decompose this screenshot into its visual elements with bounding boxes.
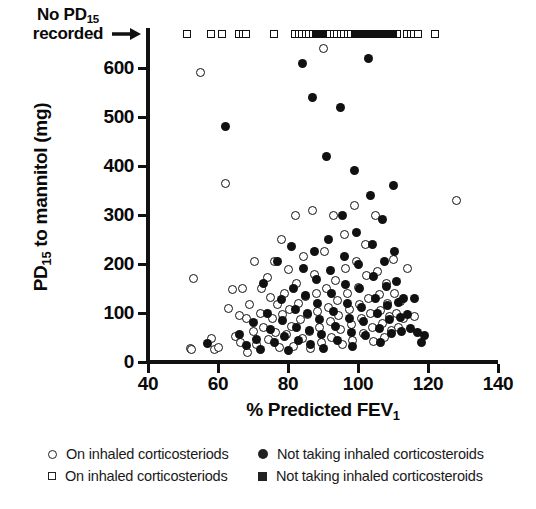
data-point [310, 247, 319, 256]
no-pd15-annotation: No PD15 recorded [14, 6, 122, 43]
data-point [277, 235, 286, 244]
legend: On inhaled corticosteriodsNot taking inh… [0, 444, 536, 490]
data-point [319, 344, 328, 353]
data-point [420, 331, 429, 340]
data-point [245, 300, 254, 309]
data-point [270, 338, 279, 347]
x-tick-120 [427, 364, 430, 373]
data-point [359, 317, 368, 326]
data-point [312, 275, 321, 284]
data-point [338, 211, 347, 220]
data-point [250, 257, 259, 266]
legend-entry-3[interactable]: On inhaled corticosteriods [48, 468, 227, 484]
data-point [280, 332, 289, 341]
data-point [403, 264, 412, 273]
data-point [301, 291, 310, 300]
data-point [355, 284, 364, 293]
data-point [343, 299, 352, 308]
data-point [273, 257, 282, 266]
data-point [324, 235, 333, 244]
data-point [331, 322, 340, 331]
y-tick-label-300: 300 [90, 205, 134, 224]
data-point [390, 247, 399, 256]
data-point [389, 181, 398, 190]
data-point [238, 284, 247, 293]
data-point [256, 345, 265, 354]
x-tick-140 [497, 364, 500, 373]
annotation-line1-sub: 15 [87, 13, 99, 25]
data-point [383, 301, 392, 310]
legend-entry-2[interactable]: Not taking inhaled corticosteroids [258, 446, 484, 462]
data-point [340, 230, 349, 239]
legend-entry-1[interactable]: On inhaled corticosteriods [48, 446, 228, 462]
legend-entry-4[interactable]: Not taking inhaled corticosteroids [258, 468, 483, 484]
x-tick-40 [147, 364, 150, 373]
data-point [196, 68, 205, 77]
data-point [399, 294, 408, 303]
annotation-line2: recorded [33, 24, 103, 43]
data-point [357, 303, 366, 312]
filled-circle-icon [258, 449, 268, 459]
legend-label: Not taking inhaled corticosteroids [276, 468, 483, 484]
data-point [305, 326, 314, 335]
data-point [347, 328, 356, 337]
data-point [350, 166, 359, 175]
data-point [252, 335, 261, 344]
data-point [259, 279, 268, 288]
data-point [284, 346, 293, 355]
data-point [189, 274, 198, 283]
data-point [343, 289, 352, 298]
x-tick-label-140: 140 [473, 374, 523, 393]
data-point [203, 339, 212, 348]
data-point [284, 265, 293, 274]
data-point [336, 103, 345, 112]
data-point [315, 315, 324, 324]
data-point [378, 215, 387, 224]
x-axis-title: % Predicted FEV1 [147, 399, 499, 421]
open-square-icon [48, 472, 56, 480]
data-point [249, 318, 258, 327]
data-point [354, 260, 363, 269]
data-point [289, 284, 298, 293]
data-point [373, 309, 382, 318]
data-point [329, 211, 338, 220]
data-point [291, 305, 300, 314]
data-point [322, 152, 331, 161]
data-point [392, 277, 401, 286]
data-point [221, 179, 230, 188]
data-point [187, 345, 196, 354]
data-point [224, 304, 233, 313]
data-point [350, 201, 359, 210]
y-tick-label-600: 600 [90, 58, 134, 77]
plot-area [146, 20, 498, 364]
x-tick-label-60: 60 [193, 374, 243, 393]
data-point [312, 289, 321, 298]
y-axis-title: PD15 to mannitol (mg) [30, 72, 52, 322]
x-tick-label-120: 120 [403, 374, 453, 393]
data-point [291, 211, 300, 220]
data-point [403, 310, 412, 319]
data-point [308, 206, 317, 215]
x-tick-100 [357, 364, 360, 373]
data-point [380, 257, 389, 266]
filled-square-icon [258, 472, 267, 481]
data-point [369, 272, 378, 281]
data-point [221, 122, 230, 131]
data-point [397, 327, 406, 336]
data-point [340, 252, 349, 261]
legend-label: Not taking inhaled corticosteroids [277, 446, 484, 462]
annotation-line1-main: No PD [37, 5, 87, 24]
data-point [317, 330, 326, 339]
data-point [341, 264, 350, 273]
data-point [329, 307, 338, 316]
x-tick-label-40: 40 [123, 374, 173, 393]
y-tick-label-0: 0 [90, 352, 134, 371]
x-tick-label-100: 100 [333, 374, 383, 393]
data-point [361, 331, 370, 340]
data-point [214, 343, 223, 352]
data-point [382, 282, 391, 291]
data-point [287, 242, 296, 251]
data-point [341, 280, 350, 289]
data-point [278, 316, 287, 325]
data-point [385, 315, 394, 324]
